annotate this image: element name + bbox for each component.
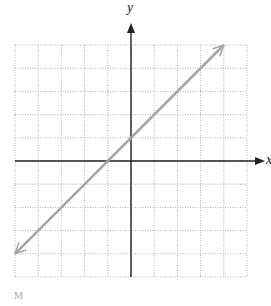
axes [15, 23, 265, 277]
plotted-line [15, 45, 224, 254]
x-axis-label: x [266, 152, 271, 168]
y-axis-label: y [127, 0, 133, 16]
caption-text: M [14, 290, 23, 301]
coordinate-plane [0, 0, 271, 306]
